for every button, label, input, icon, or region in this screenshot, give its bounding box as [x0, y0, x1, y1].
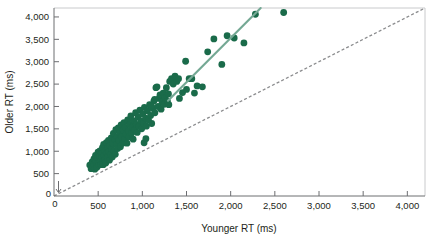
x-tick-label: 3,000 [307, 200, 331, 211]
plot-frame [54, 8, 425, 196]
data-point [151, 109, 158, 116]
y-tick-label: 3,500 [25, 34, 49, 45]
data-point [191, 90, 198, 97]
data-point [182, 58, 189, 65]
identity-line [54, 8, 425, 196]
data-point [148, 102, 155, 109]
axes-group [54, 8, 425, 196]
y-tick-label: 500 [33, 168, 49, 179]
fit-line-group [168, 8, 261, 101]
y-tick-label: 4,000 [25, 11, 49, 22]
data-point [204, 48, 211, 55]
y-tick-label: 1,500 [25, 123, 49, 134]
x-tick-label: 1,000 [130, 200, 154, 211]
x-tick-label: 4,000 [395, 200, 419, 211]
data-point [165, 101, 172, 108]
y-tick-label: 2,500 [25, 78, 49, 89]
x-tick-label: 2,000 [219, 200, 243, 211]
data-points-group [86, 9, 287, 172]
data-point [241, 40, 248, 47]
y-tick-label: 3,000 [25, 56, 49, 67]
scatter-plot-figure: 05001,0001,5002,0002,5003,0003,5004,000 … [0, 0, 443, 239]
data-point [280, 9, 287, 16]
data-point [124, 140, 131, 147]
data-point [210, 35, 217, 42]
data-point [148, 120, 155, 127]
x-tick-label: 2,500 [263, 200, 287, 211]
chart-canvas: 05001,0001,5002,0002,5003,0003,5004,000 … [0, 0, 443, 239]
regression-line [168, 8, 261, 101]
y-tick-label: 1,000 [25, 146, 49, 157]
x-axis-title: Younger RT (ms) [201, 223, 276, 234]
identity-line-group [54, 8, 425, 196]
data-point [142, 135, 149, 142]
x-tick-label: 3,500 [351, 200, 375, 211]
x-tick-label: 0 [52, 198, 57, 209]
data-point [176, 95, 183, 102]
y-axis-title: Older RT (ms) [4, 71, 15, 134]
y-tick-label: 2,000 [25, 101, 49, 112]
data-point [218, 61, 225, 68]
data-point [112, 151, 119, 158]
data-point [154, 83, 161, 90]
data-point [199, 83, 206, 90]
x-tick-label: 500 [90, 200, 106, 211]
x-axis-ticks: 05001,0001,5002,0002,5003,0003,5004,000 [52, 191, 419, 211]
data-point [163, 84, 170, 91]
y-tick-label: 0 [46, 188, 51, 199]
data-point [183, 86, 190, 93]
axis-break-arrow [56, 181, 61, 193]
data-point [151, 96, 158, 103]
frame-border [54, 8, 425, 196]
x-tick-label: 1,500 [175, 200, 199, 211]
data-point [130, 136, 137, 143]
data-point [175, 75, 182, 82]
